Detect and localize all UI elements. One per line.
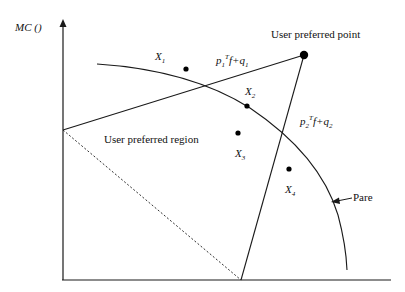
pareto-label: Pare	[353, 192, 373, 203]
pareto-diagram	[0, 0, 405, 292]
point-x2-sub: 2	[252, 92, 256, 100]
y-axis-label-text: MC ()	[15, 21, 42, 33]
line-p2-mid: f+	[313, 115, 323, 127]
user-preferred-point-text: User preferred point	[271, 28, 360, 40]
dashed-boundary-line	[63, 130, 241, 280]
line-p1	[63, 55, 304, 130]
point-x2-name: X	[245, 85, 252, 97]
point-x3-dot	[235, 130, 240, 135]
line-p2-q-sub: 2	[329, 122, 333, 130]
line-p1-p-sub: 1	[222, 61, 226, 69]
point-x3-label: X3	[235, 148, 245, 162]
line-p2-label: p2Tf+q2	[300, 115, 332, 130]
point-x1-label: X1	[155, 51, 165, 65]
point-x1-sub: 1	[162, 57, 166, 65]
point-x4-name: X	[285, 183, 292, 195]
user-preferred-point-label: User preferred point	[271, 29, 360, 40]
point-x1-dot	[183, 66, 188, 71]
pareto-front-curve	[97, 64, 347, 270]
point-x4-label: X4	[285, 184, 295, 198]
line-p1-label: p1Tf+q1	[216, 54, 248, 69]
point-x3-sub: 3	[242, 154, 246, 162]
point-x2-dot	[244, 103, 249, 108]
line-p1-mid: f+	[229, 54, 239, 66]
line-p2-p-sub: 2	[306, 122, 310, 130]
line-p1-q-sub: 1	[245, 61, 249, 69]
user-preferred-point-dot	[300, 51, 308, 59]
point-x4-dot	[286, 166, 291, 171]
pareto-text: Pare	[353, 191, 373, 203]
user-preferred-region-label: User preferred region	[104, 134, 199, 145]
point-x2-label: X2	[245, 86, 255, 100]
point-x1-name: X	[155, 50, 162, 62]
user-preferred-region-text: User preferred region	[104, 133, 199, 145]
point-x3-name: X	[235, 147, 242, 159]
y-axis-arrow-icon	[60, 19, 67, 27]
point-x4-sub: 4	[292, 190, 296, 198]
y-axis-label: MC ()	[15, 22, 42, 33]
